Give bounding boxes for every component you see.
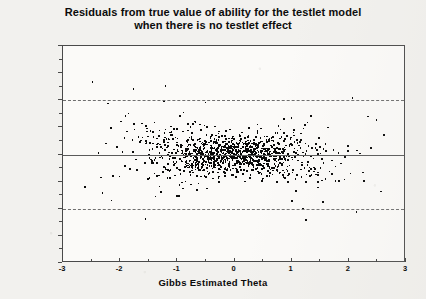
data-point: [311, 147, 313, 149]
data-point: [142, 137, 144, 139]
data-point: [152, 149, 154, 151]
data-point: [290, 137, 292, 139]
data-point: [146, 131, 148, 133]
data-point: [167, 177, 169, 179]
data-point: [293, 135, 295, 137]
data-point: [306, 174, 308, 176]
data-point: [335, 166, 337, 168]
data-point: [316, 149, 318, 151]
data-point: [174, 175, 176, 177]
x-tick-mark: [234, 258, 235, 262]
data-point: [299, 141, 301, 143]
data-point: [195, 122, 197, 124]
data-point: [293, 132, 295, 134]
data-point: [218, 133, 220, 135]
data-point: [266, 175, 268, 177]
data-point: [262, 178, 264, 180]
x-tick-mark: [119, 258, 120, 262]
data-point: [201, 166, 203, 168]
data-point: [335, 180, 337, 182]
data-point: [180, 146, 182, 148]
data-point: [125, 115, 127, 117]
data-point: [269, 172, 271, 174]
data-point: [194, 143, 196, 145]
data-point: [305, 143, 307, 145]
data-point: [356, 211, 358, 213]
data-point: [149, 142, 151, 144]
data-point: [383, 134, 385, 136]
data-point: [132, 151, 134, 153]
data-point: [248, 166, 250, 168]
data-point: [162, 171, 164, 173]
data-point: [200, 157, 202, 159]
data-point: [279, 172, 281, 174]
data-point: [215, 135, 217, 137]
data-point: [110, 127, 112, 129]
data-point: [290, 138, 292, 140]
data-point: [212, 178, 214, 180]
data-point: [192, 165, 194, 167]
data-point: [283, 140, 285, 142]
data-point: [170, 126, 172, 128]
data-point: [128, 113, 130, 115]
data-point: [124, 137, 126, 139]
data-point: [240, 163, 242, 165]
data-point: [317, 187, 319, 189]
data-point: [229, 161, 231, 163]
data-point: [132, 139, 134, 141]
data-point: [301, 176, 303, 178]
data-point: [204, 125, 206, 127]
data-point: [235, 168, 237, 170]
data-point: [218, 157, 220, 159]
x-tick-mark-minor: [319, 259, 320, 262]
data-point: [239, 156, 241, 158]
data-point: [162, 148, 164, 150]
data-point: [325, 178, 327, 180]
data-point: [167, 145, 169, 147]
data-point: [181, 145, 183, 147]
data-point: [315, 143, 317, 145]
x-tick-label: -2: [104, 264, 134, 273]
data-point: [239, 166, 241, 168]
data-point: [181, 160, 183, 162]
data-point: [321, 180, 323, 182]
data-point: [155, 196, 157, 198]
data-point: [247, 136, 249, 138]
data-point: [291, 117, 293, 119]
data-point: [304, 167, 306, 169]
data-point: [303, 128, 305, 130]
data-point: [206, 144, 208, 146]
data-point: [174, 163, 176, 165]
data-point: [246, 170, 248, 172]
data-point: [173, 164, 175, 166]
data-point: [276, 147, 278, 149]
data-point: [200, 146, 202, 148]
data-point: [247, 140, 249, 142]
data-point: [181, 182, 183, 184]
data-point: [261, 173, 263, 175]
data-point: [158, 175, 160, 177]
data-point: [92, 81, 94, 83]
data-point: [285, 158, 287, 160]
data-point: [222, 163, 224, 165]
data-point: [146, 142, 148, 144]
data-point: [126, 131, 128, 133]
data-point: [291, 200, 293, 202]
x-tick-mark-minor: [376, 259, 377, 262]
reference-line-2: [63, 209, 404, 210]
data-point: [293, 129, 295, 131]
data-point: [179, 169, 181, 171]
data-point: [289, 165, 291, 167]
data-point: [362, 172, 364, 174]
data-point: [325, 143, 327, 145]
data-point: [211, 134, 213, 136]
data-point: [182, 188, 184, 190]
data-point: [287, 181, 289, 183]
data-point: [313, 158, 315, 160]
data-point: [156, 144, 158, 146]
data-point: [281, 158, 283, 160]
data-point: [170, 169, 172, 171]
data-point: [167, 163, 169, 165]
data-point: [301, 164, 303, 166]
data-point: [239, 134, 241, 136]
